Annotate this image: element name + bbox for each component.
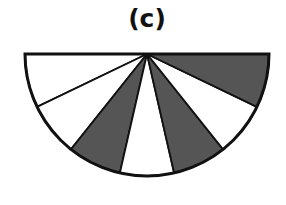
- sectors: [25, 54, 269, 176]
- semicircle-diagram: [0, 0, 286, 205]
